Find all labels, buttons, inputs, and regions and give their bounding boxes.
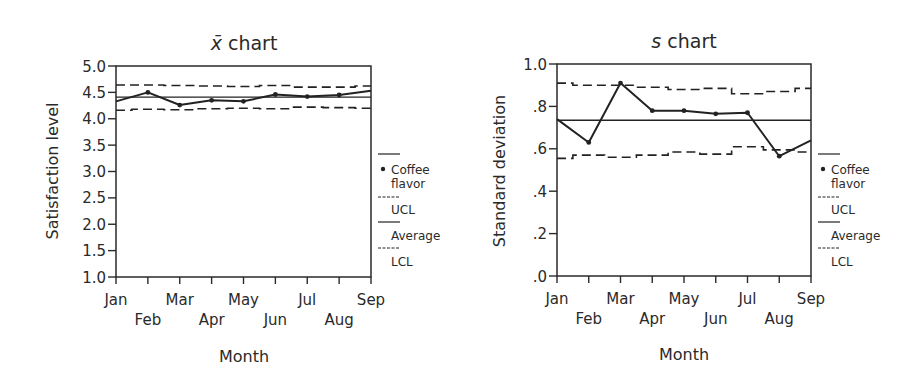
legend-label-lcl: LCL <box>391 255 413 269</box>
s-y-axis-label: Standard deviation <box>490 95 509 247</box>
xbar-legend: CoffeeflavorUCLAverageLCL <box>378 154 440 269</box>
s-legend: CoffeeflavorUCLAverageLCL <box>818 154 880 269</box>
x-tick-label: Aug <box>324 311 353 329</box>
y-tick-label: 5.0 <box>82 58 106 76</box>
y-tick-label: 1.0 <box>523 56 547 74</box>
y-tick-label: 2.0 <box>82 216 106 234</box>
y-tick-label: .8 <box>533 98 547 116</box>
data-point-marker <box>713 111 718 116</box>
legend-label-ucl: UCL <box>391 203 415 217</box>
xbar-y-axis-label: Satisfaction level <box>43 102 62 239</box>
s-plot-area <box>557 64 811 276</box>
data-point-marker <box>682 108 687 113</box>
data-point-marker <box>650 108 655 113</box>
y-tick-label: .4 <box>533 183 547 201</box>
x-tick-label: Aug <box>765 310 794 328</box>
x-tick-label: May <box>228 291 259 309</box>
legend-marker-icon <box>381 167 385 171</box>
s-x-axis-label: Month <box>659 345 709 364</box>
y-tick-label: 3.5 <box>82 137 106 155</box>
data-point-marker <box>241 99 246 104</box>
legend-label-flavor: flavor <box>391 177 425 191</box>
xbar-plot-area <box>116 66 371 277</box>
x-tick-label: Feb <box>135 311 162 329</box>
y-tick-label: 1.0 <box>82 269 106 287</box>
x-tick-label: Feb <box>575 310 602 328</box>
legend-label-flavor: flavor <box>831 177 865 191</box>
xbar-chart: x̄ chart Satisfaction level Month 1.01.5… <box>43 32 440 366</box>
x-tick-label: May <box>668 290 699 308</box>
x-tick-label: Mar <box>606 290 635 308</box>
data-point-marker <box>145 90 150 95</box>
xbar-chart-title: x̄ chart <box>210 32 278 54</box>
y-tick-label: 1.5 <box>82 242 106 260</box>
data-point-marker <box>586 140 591 145</box>
y-tick-label: 2.5 <box>82 189 106 207</box>
legend-label-average: Average <box>391 229 440 243</box>
lcl-line <box>116 107 371 110</box>
xbar-y-ticks: 1.01.52.02.53.03.54.04.55.0 <box>82 58 116 287</box>
x-tick-label: Sep <box>797 290 825 308</box>
x-tick-label: Sep <box>357 291 385 309</box>
y-tick-label: 4.0 <box>82 110 106 128</box>
s-chart-title: s chart <box>651 30 716 52</box>
xbar-x-axis-label: Month <box>219 347 269 366</box>
x-tick-label: Jul <box>737 290 756 308</box>
legend-label-coffee: Coffee <box>831 163 870 177</box>
s-x-ticks: JanFebMarAprMayJunJulAugSep <box>544 276 825 328</box>
y-tick-label: .0 <box>533 268 547 286</box>
y-tick-label: .6 <box>533 140 547 158</box>
x-tick-label: Jun <box>263 311 287 329</box>
data-point-marker <box>745 110 750 115</box>
legend-label-coffee: Coffee <box>391 163 430 177</box>
x-tick-label: Apr <box>199 311 226 329</box>
control-charts-figure: x̄ chart Satisfaction level Month 1.01.5… <box>0 0 924 389</box>
legend-label-ucl: UCL <box>831 203 855 217</box>
s-y-ticks: .0.2.4.6.81.0 <box>523 56 557 286</box>
legend-label-lcl: LCL <box>831 255 853 269</box>
data-point-marker <box>273 92 278 97</box>
x-tick-label: Jan <box>103 291 127 309</box>
y-tick-label: .2 <box>533 225 547 243</box>
y-tick-label: 3.0 <box>82 163 106 181</box>
plot-frame <box>557 64 811 276</box>
xbar-x-ticks: JanFebMarAprMayJunJulAugSep <box>103 277 385 329</box>
s-chart: s chart Standard deviation Month .0.2.4.… <box>490 30 880 364</box>
x-tick-label: Jul <box>297 291 316 309</box>
ucl-line <box>557 83 811 94</box>
data-point-marker <box>777 154 782 159</box>
y-tick-label: 4.5 <box>82 84 106 102</box>
x-tick-label: Mar <box>166 291 195 309</box>
x-tick-label: Jun <box>703 310 727 328</box>
data-point-marker <box>177 103 182 108</box>
data-point-marker <box>209 98 214 103</box>
legend-marker-icon <box>821 167 825 171</box>
x-tick-label: Jan <box>544 290 568 308</box>
legend-label-average: Average <box>831 229 880 243</box>
x-tick-label: Apr <box>639 310 666 328</box>
ucl-line <box>116 85 371 87</box>
